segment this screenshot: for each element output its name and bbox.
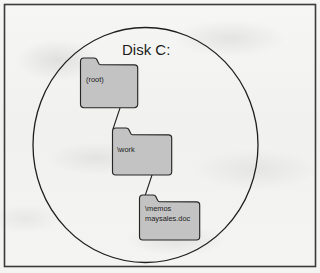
connector-root-to-work [113, 108, 120, 129]
folder-memos-label-line1: \memos [145, 204, 172, 213]
figure-page: (root) \work \memos maysales.doc Disk C: [0, 0, 320, 273]
connector-work-to-memos [145, 175, 152, 196]
folder-work[interactable]: \work [113, 128, 172, 175]
folder-root-label: (root) [86, 75, 104, 84]
folder-memos-label-line2: maysales.doc [145, 214, 190, 223]
folder-work-label: \work [117, 145, 135, 154]
folder-root[interactable]: (root) [81, 58, 138, 108]
disk-title: Disk C: [122, 41, 170, 58]
disk-hierarchy-diagram: (root) \work \memos maysales.doc Disk C: [0, 0, 320, 273]
folder-memos[interactable]: \memos maysales.doc [140, 195, 200, 240]
